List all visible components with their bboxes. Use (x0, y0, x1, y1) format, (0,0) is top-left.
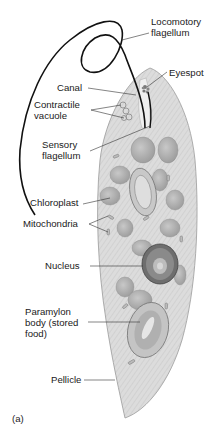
label-eyespot: Eyespot (169, 67, 204, 78)
label-mitochondria: Mitochondria (23, 218, 78, 229)
label-locomotory-flagellum: Locomotory flagellum (151, 16, 201, 38)
nucleus (142, 244, 178, 284)
label-contractile-vacuole: Contractile vacuole (34, 99, 80, 121)
label-nucleus: Nucleus (45, 260, 80, 271)
label-sensory-flagellum: Sensory flagellum (42, 139, 80, 161)
panel-label: (a) (12, 413, 24, 424)
label-canal: Canal (57, 82, 82, 93)
label-paramylon-body: Paramylon body (stored food) (25, 306, 78, 339)
label-pellicle: Pellicle (51, 374, 81, 385)
label-chloroplast: Chloroplast (30, 197, 79, 208)
